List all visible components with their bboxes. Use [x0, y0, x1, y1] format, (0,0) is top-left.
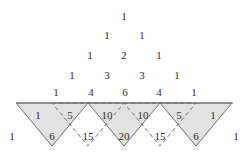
- pascal-cell-r4-c0: 1: [53, 87, 59, 98]
- pascal-cell-r5-c4: 5: [176, 110, 182, 121]
- pascal-cell-r0-c0: 1: [121, 11, 127, 22]
- pascal-triangle-figure: 1 1 1 1 2 1 1 3 3 1 1 4 6 4 1 1 5 10 10 …: [0, 0, 248, 160]
- pascal-cell-r3-c3: 1: [174, 70, 180, 81]
- pascal-cell-r4-c2: 6: [122, 87, 128, 98]
- pascal-cell-r6-c6: 1: [233, 131, 239, 142]
- pascal-cell-r6-c4: 15: [155, 131, 166, 142]
- pascal-cell-r5-c0: 1: [35, 110, 41, 121]
- pascal-cell-r4-c4: 1: [191, 87, 197, 98]
- pascal-cell-r3-c0: 1: [69, 70, 75, 81]
- pascal-cell-r6-c0: 1: [9, 131, 15, 142]
- pascal-cell-r3-c2: 3: [139, 70, 145, 81]
- pascal-cell-r2-c1: 2: [121, 50, 127, 61]
- pascal-cell-r1-c1: 1: [139, 30, 145, 41]
- pascal-cell-r3-c1: 3: [104, 70, 110, 81]
- pascal-cell-r2-c2: 1: [156, 50, 162, 61]
- pascal-cell-r6-c5: 6: [193, 131, 199, 142]
- pascal-cell-r4-c3: 4: [156, 87, 162, 98]
- pascal-cell-r6-c3: 20: [119, 131, 130, 142]
- pascal-cell-r1-c0: 1: [104, 30, 110, 41]
- pascal-cell-r6-c1: 6: [49, 131, 55, 142]
- pascal-cell-r5-c5: 1: [210, 110, 216, 121]
- pascal-cell-r2-c0: 1: [87, 50, 93, 61]
- pascal-cell-r6-c2: 15: [83, 131, 94, 142]
- pascal-cell-r4-c1: 4: [88, 87, 94, 98]
- pascal-cell-r5-c2: 10: [102, 110, 113, 121]
- pascal-cell-r5-c3: 10: [138, 110, 149, 121]
- pascal-cell-r5-c1: 5: [67, 110, 73, 121]
